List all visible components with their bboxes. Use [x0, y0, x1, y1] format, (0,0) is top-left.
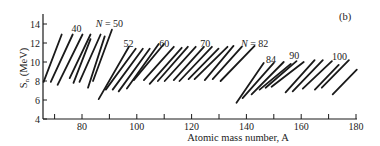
isotope-chain-line — [127, 44, 159, 89]
y-tick-label: 12 — [30, 38, 40, 49]
isotope-chain-line — [243, 63, 274, 98]
x-tick-label: 100 — [129, 121, 144, 132]
y-tick-label: 6 — [35, 95, 40, 106]
neutron-number-label: 40 — [72, 23, 82, 34]
neutron-number-label: 100 — [332, 51, 347, 62]
isotope-chain-line — [237, 63, 264, 103]
chart-figure: 46810121480100120140160180 40N = 5052607… — [0, 0, 380, 146]
y-tick-label: 4 — [35, 114, 40, 125]
isotope-chain-line — [260, 64, 291, 90]
isotope-chain-line — [189, 49, 219, 79]
y-axis-title-unit: (MeV) — [18, 47, 30, 79]
neutron-number-label: 90 — [289, 50, 299, 61]
isotope-chain-line — [315, 65, 339, 90]
x-axis-title-text: Atomic mass number, A — [187, 132, 289, 143]
neutron-number-label: N = 82 — [240, 38, 268, 49]
chart-svg: 46810121480100120140160180 40N = 5052607… — [0, 0, 380, 146]
isotope-chain-line — [252, 62, 284, 94]
neutron-number-label: 60 — [159, 38, 169, 49]
panel-label: (b) — [339, 11, 352, 23]
neutron-number-label: 70 — [200, 38, 210, 49]
x-tick-label: 180 — [349, 121, 364, 132]
x-tick-label: 140 — [239, 121, 254, 132]
x-tick-label: 80 — [77, 121, 87, 132]
isotope-chain-line — [113, 49, 143, 90]
x-tick-label: 160 — [294, 121, 309, 132]
isotope-chain-line — [150, 48, 182, 84]
neutron-number-label: 84 — [266, 54, 276, 65]
isotope-chain-line — [322, 60, 349, 88]
y-tick-label: 14 — [30, 19, 40, 30]
x-tick-label: 120 — [184, 121, 199, 132]
isotope-chain-line — [44, 35, 62, 82]
y-axis-title: Sn (MeV) — [18, 47, 31, 88]
y-tick-label: 10 — [30, 57, 40, 68]
y-tick-label: 8 — [35, 76, 40, 87]
ticks: 46810121480100120140160180 — [30, 19, 364, 133]
neutron-number-label: N = 50 — [95, 18, 123, 29]
x-axis-title: Atomic mass number, A — [187, 132, 289, 143]
neutron-number-label: 52 — [124, 38, 134, 49]
isotope-chain-line — [93, 30, 112, 81]
